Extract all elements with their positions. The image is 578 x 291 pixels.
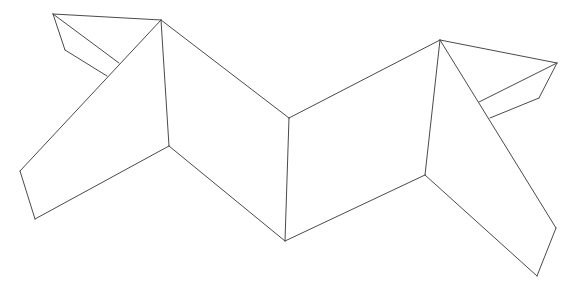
edge-C-D <box>65 50 107 76</box>
edge-M-P <box>479 63 557 102</box>
edge-R-L <box>425 175 537 276</box>
edge-N-O <box>490 98 539 118</box>
edge-H-J <box>169 146 285 241</box>
edge-B-F <box>20 20 161 171</box>
edge-K-Q <box>440 40 556 228</box>
edge-A-C <box>53 14 65 50</box>
edge-F-G <box>20 171 35 219</box>
edge-G-H <box>35 146 169 219</box>
edge-B-I <box>161 20 289 118</box>
edge-I-J <box>285 118 289 241</box>
edge-A-B <box>53 14 161 20</box>
edge-Q-R <box>537 228 556 276</box>
edge-K-M <box>440 40 557 63</box>
edge-A-E <box>53 14 119 63</box>
edge-B-H <box>161 20 169 146</box>
edge-J-L <box>285 175 425 241</box>
diagram-edges <box>20 14 557 276</box>
edge-M-N <box>539 63 557 98</box>
edge-I-K <box>289 40 440 118</box>
edge-K-L <box>425 40 440 175</box>
folded-net-diagram <box>0 0 578 291</box>
